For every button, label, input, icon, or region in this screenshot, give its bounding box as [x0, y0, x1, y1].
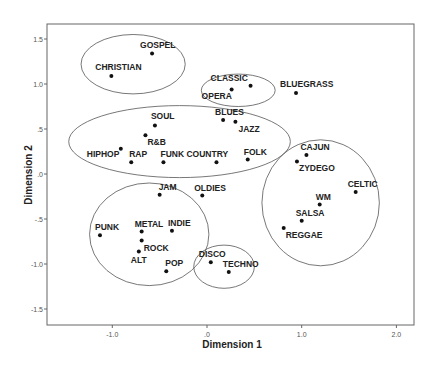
x-tick-label: -1.0: [106, 331, 118, 338]
point-rock: ROCK: [140, 239, 170, 253]
x-axis-ticks: -1.0.01.02.0: [106, 325, 401, 338]
point-label: WM: [316, 192, 331, 202]
point-label: GOSPEL: [140, 40, 175, 50]
point-pop: POP: [164, 258, 183, 273]
point-label: ZYDEGO: [299, 163, 335, 173]
point-marker: [164, 269, 168, 273]
point-marker: [354, 190, 358, 194]
cluster-ellipse-world: [262, 140, 379, 266]
point-label: JAM: [159, 182, 177, 192]
point-salsa: SALSA: [296, 208, 325, 223]
y-tick-label: -1.0: [31, 261, 43, 268]
point-marker: [304, 153, 308, 157]
point-label: INDIE: [168, 218, 191, 228]
point-label: CAJUN: [300, 142, 329, 152]
point-marker: [170, 229, 174, 233]
point-classic: CLASSIC: [211, 73, 253, 88]
point-label: SALSA: [296, 208, 325, 218]
point-jazz: JAZZ: [233, 120, 259, 134]
mds-scatter-chart: -1.0.01.02.0 1.51.0.5.0-.5-1.0-1.5 GOSPE…: [0, 0, 437, 367]
point-marker: [227, 270, 231, 274]
point-label: CLASSIC: [211, 73, 248, 83]
point-punk: PUNK: [95, 222, 120, 237]
x-tick-label: .0: [204, 331, 210, 338]
point-label: BLUEGRASS: [280, 79, 334, 89]
cluster-ellipse-soul-blues-country: [69, 106, 291, 178]
x-tick-label: 1.0: [297, 331, 307, 338]
y-tick-label: 1.0: [33, 81, 43, 88]
point-marker: [249, 84, 253, 88]
point-christian: CHRISTIAN: [95, 62, 141, 78]
point-marker: [233, 120, 237, 124]
point-label: BLUES: [215, 107, 244, 117]
y-axis-title: Dimension 2: [23, 145, 34, 205]
y-tick-label: 1.5: [33, 36, 43, 43]
point-bluegrass: BLUEGRASS: [280, 79, 334, 95]
point-folk: FOLK: [244, 147, 268, 162]
y-tick-label: -1.5: [31, 306, 43, 313]
point-marker: [153, 123, 157, 127]
point-label: OPERA: [202, 91, 232, 101]
point-label: SOUL: [151, 111, 175, 121]
point-hiphop: HIPHOP: [87, 147, 123, 159]
point-rap: RAP: [129, 149, 147, 164]
point-label: JAZZ: [238, 124, 259, 134]
point-marker: [209, 260, 213, 264]
point-gospel: GOSPEL: [140, 40, 175, 55]
point-marker: [246, 158, 250, 162]
point-label: CHRISTIAN: [95, 62, 141, 72]
point-marker: [318, 203, 322, 207]
point-blues: BLUES: [215, 107, 244, 122]
point-marker: [129, 160, 133, 164]
point-label: HIPHOP: [87, 149, 120, 159]
point-label: CELTIC: [348, 179, 378, 189]
point-marker: [300, 219, 304, 223]
point-marker: [150, 51, 154, 55]
point-opera: OPERA: [202, 87, 234, 101]
cluster-ellipse-rock-pop: [90, 183, 209, 286]
point-label: FOLK: [244, 147, 268, 157]
point-country: COUNTRY: [186, 149, 228, 164]
point-label: TECHNO: [223, 259, 259, 269]
point-label: DISCO: [199, 249, 226, 259]
data-points: GOSPELCHRISTIANCLASSICOPERABLUEGRASSSOUL…: [87, 40, 378, 274]
point-label: RAP: [129, 149, 147, 159]
point-indie: INDIE: [168, 218, 191, 233]
point-metal: METAL: [135, 219, 164, 234]
point-zydego: ZYDEGO: [295, 159, 335, 173]
point-jam: JAM: [158, 182, 177, 197]
point-label: OLDIES: [194, 183, 226, 193]
point-cajun: CAJUN: [300, 142, 329, 157]
point-marker: [109, 74, 113, 78]
point-oldies: OLDIES: [194, 183, 226, 198]
point-marker: [119, 147, 123, 151]
point-marker: [214, 160, 218, 164]
point-marker: [221, 118, 225, 122]
point-marker: [140, 230, 144, 234]
point-marker: [98, 233, 102, 237]
point-label: ALT: [131, 255, 148, 265]
point-label: METAL: [135, 219, 164, 229]
point-label: FUNK: [160, 149, 184, 159]
x-axis-title: Dimension 1: [202, 339, 262, 350]
point-label: REGGAE: [286, 230, 323, 240]
point-soul: SOUL: [151, 111, 175, 127]
point-funk: FUNK: [160, 149, 184, 164]
point-marker: [200, 194, 204, 198]
y-tick-label: .0: [37, 171, 43, 178]
y-tick-label: -.5: [35, 216, 43, 223]
y-tick-label: .5: [37, 126, 43, 133]
point-label: POP: [165, 258, 183, 268]
point-label: COUNTRY: [186, 149, 228, 159]
point-celtic: CELTIC: [348, 179, 378, 194]
point-reggae: REGGAE: [282, 226, 323, 240]
point-marker: [161, 160, 165, 164]
point-label: ROCK: [144, 243, 170, 253]
point-wm: WM: [316, 192, 331, 207]
point-marker: [294, 91, 298, 95]
point-marker: [137, 249, 141, 253]
point-label: PUNK: [95, 222, 120, 232]
x-tick-label: 2.0: [392, 331, 402, 338]
point-marker: [158, 193, 162, 197]
point-rb: R&B: [143, 133, 165, 147]
